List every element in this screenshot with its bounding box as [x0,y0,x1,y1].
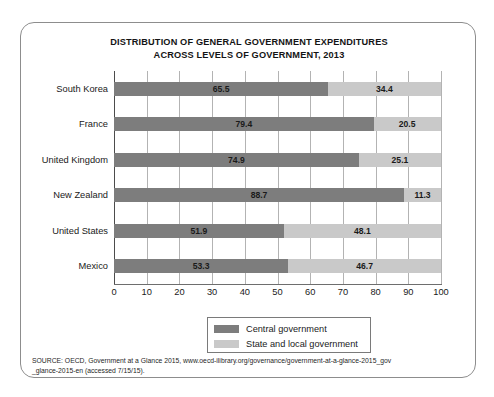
legend-swatch-central-icon [214,325,239,333]
bar-value-label: 25.1 [359,153,441,167]
bar-value-label: 48.1 [284,224,441,238]
category-label: Mexico [79,259,108,273]
gridline-30 [212,71,213,284]
gridline-80 [376,71,377,284]
x-tick-label: 30 [197,287,227,297]
bar-value-label: 20.5 [374,117,441,131]
gridline-60 [310,71,311,284]
bar-row: 88.711.3 [114,188,441,202]
chart-title-line-1: DISTRIBUTION OF GENERAL GOVERNMENT EXPEN… [21,36,477,49]
x-tick-label: 20 [164,287,194,297]
bar-value-label: 53.3 [114,259,288,273]
bar-value-label: 79.4 [114,117,374,131]
legend-swatch-local-icon [214,340,239,348]
x-axis-line [114,284,442,286]
x-tick-label: 50 [263,287,293,297]
bar-row: 65.534.4 [114,82,441,96]
y-axis-line [114,71,115,284]
source-note: SOURCE: OECD, Government at a Glance 201… [32,356,468,376]
source-line-1: SOURCE: OECD, Government at a Glance 201… [32,356,468,366]
chart-title-line-2: ACROSS LEVELS OF GOVERNMENT, 2013 [21,49,477,62]
x-tick-label: 80 [361,287,391,297]
category-label: South Korea [56,82,108,96]
source-line-2: _glance-2015-en (accessed 7/15/15). [32,366,468,376]
x-tick-label: 40 [230,287,260,297]
x-tick-label: 10 [132,287,162,297]
category-axis-labels: South KoreaFranceUnited KingdomNew Zeala… [21,71,108,284]
gridline-100 [441,71,442,284]
gridline-90 [408,71,409,284]
legend-label-local: State and local government [246,339,358,349]
chart-title: DISTRIBUTION OF GENERAL GOVERNMENT EXPEN… [21,36,477,61]
legend-label-central: Central government [246,324,327,334]
gridline-20 [179,71,180,284]
bar-value-label: 46.7 [288,259,441,273]
category-label: New Zealand [53,188,108,202]
x-tick-label: 70 [328,287,358,297]
x-tick-label: 0 [99,287,129,297]
bar-row: 53.346.7 [114,259,441,273]
bar-row: 74.925.1 [114,153,441,167]
chart-legend: Central government State and local gover… [207,317,371,353]
x-tick-label: 90 [393,287,423,297]
x-axis-tick-labels: 0102030405060708090100 [114,287,441,301]
bar-value-label: 74.9 [114,153,359,167]
category-label: United States [52,224,108,238]
gridline-10 [147,71,148,284]
gridline-50 [278,71,279,284]
bar-value-label: 65.5 [114,82,328,96]
plot-area: 65.534.479.420.574.925.188.711.351.948.1… [114,71,441,284]
legend-item-local: State and local government [214,337,370,350]
category-label: United Kingdom [42,153,108,167]
category-label: France [79,117,108,131]
legend-item-central: Central government [214,322,370,335]
bar-value-label: 11.3 [404,188,441,202]
bar-value-label: 88.7 [114,188,404,202]
x-tick-label: 100 [426,287,456,297]
gridline-70 [343,71,344,284]
gridline-40 [245,71,246,284]
bar-value-label: 34.4 [328,82,440,96]
bar-row: 79.420.5 [114,117,441,131]
bar-value-label: 51.9 [114,224,284,238]
x-tick-label: 60 [295,287,325,297]
bar-row: 51.948.1 [114,224,441,238]
figure-card: DISTRIBUTION OF GENERAL GOVERNMENT EXPEN… [20,22,476,378]
